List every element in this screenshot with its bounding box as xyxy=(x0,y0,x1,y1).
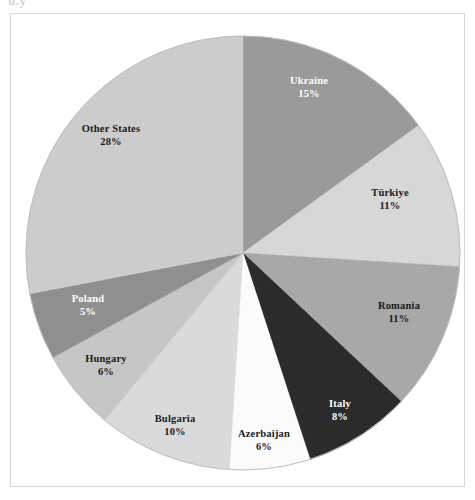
pie-label-name: Other States xyxy=(82,123,141,136)
pie-label-value: 11% xyxy=(378,313,420,326)
pie-label-italy: Italy8% xyxy=(329,398,351,424)
pie-slice-other-states[interactable] xyxy=(26,36,243,294)
pie-label-name: Azerbaijan xyxy=(238,428,290,441)
pie-label-türkiye: Türkiye11% xyxy=(371,187,409,213)
pie-label-ukraine: Ukraine15% xyxy=(290,75,328,101)
pie-label-name: Hungary xyxy=(85,353,127,366)
pie-label-name: Poland xyxy=(72,293,105,306)
pie-label-name: Türkiye xyxy=(371,187,409,200)
pie-label-value: 15% xyxy=(290,88,328,101)
pie-label-poland: Poland5% xyxy=(72,293,105,319)
pie-label-value: 10% xyxy=(155,426,196,439)
pie-label-value: 8% xyxy=(329,411,351,424)
pie-label-value: 11% xyxy=(371,200,409,213)
pie-chart-svg xyxy=(0,0,475,500)
chart-plot-area: Ukraine15%Türkiye11%Romania11%Italy8%Aze… xyxy=(0,0,475,500)
pie-label-value: 6% xyxy=(238,441,290,454)
pie-label-name: Ukraine xyxy=(290,75,328,88)
pie-label-value: 5% xyxy=(72,306,105,319)
pie-label-name: Italy xyxy=(329,398,351,411)
pie-label-azerbaijan: Azerbaijan6% xyxy=(238,428,290,454)
pie-label-name: Romania xyxy=(378,300,420,313)
pie-label-other-states: Other States28% xyxy=(82,123,141,149)
pie-label-bulgaria: Bulgaria10% xyxy=(155,413,196,439)
pie-label-value: 28% xyxy=(82,136,141,149)
pie-label-hungary: Hungary6% xyxy=(85,353,127,379)
pie-label-name: Bulgaria xyxy=(155,413,196,426)
pie-label-value: 6% xyxy=(85,366,127,379)
pie-label-romania: Romania11% xyxy=(378,300,420,326)
pie-chart-figure: u.y Ukraine15%Türkiye11%Romania11%Italy8… xyxy=(0,0,475,500)
